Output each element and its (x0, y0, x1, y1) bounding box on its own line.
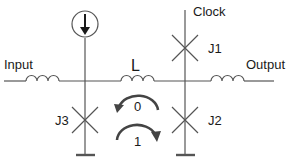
inductor-l (121, 76, 154, 82)
output-label: Output (246, 58, 285, 71)
circuit-diagram (0, 0, 288, 166)
input-label: Input (4, 58, 33, 71)
j3-label: J3 (55, 114, 69, 127)
clock-label: Clock (193, 5, 226, 18)
down-arrow-icon (80, 14, 90, 35)
input-inductor (26, 76, 59, 82)
state-1-label: 1 (134, 135, 141, 148)
output-inductor (211, 76, 244, 82)
j1-label: J1 (208, 42, 222, 55)
state-0-label: 0 (134, 100, 141, 113)
inductor-l-label: L (131, 58, 140, 74)
j2-label: J2 (208, 114, 222, 127)
